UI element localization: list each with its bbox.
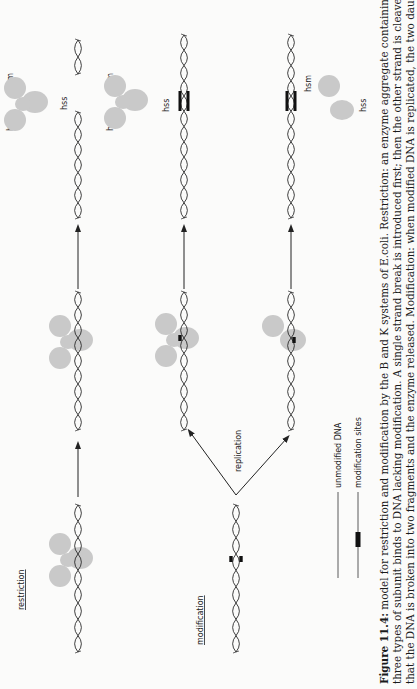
legend: unmodified DNA modification sites <box>334 417 363 578</box>
restriction-enzyme-stage1-core <box>60 553 76 567</box>
restriction-dna-stage1-strand-b <box>78 505 81 652</box>
svg-text:modification sites: modification sites <box>354 417 363 488</box>
restriction-modification-diagram: restriction modification replication hsr… <box>0 0 417 689</box>
restriction-dna-stage2-end-top <box>75 291 81 293</box>
restriction-enzyme-stage2-hsr-lobe <box>49 347 71 369</box>
daughter1-modification-site <box>178 335 181 341</box>
svg-text:hss: hss <box>162 99 171 112</box>
modification-dna-parent-strand-b <box>236 505 239 652</box>
legend-label-unmodified: unmodified DNA <box>334 422 343 488</box>
caption-line-3: that the DNA is broken into two fragment… <box>404 0 416 684</box>
parent-modification-site-a <box>229 556 232 562</box>
daughter2-released-hsm-lobe <box>318 75 340 97</box>
daughter2-dna-stage2-end-bottom <box>288 429 294 431</box>
restriction-dna-stage2-end-bottom <box>75 429 81 431</box>
restriction-dna-fragment-bottom-strand-a <box>75 112 78 218</box>
replication-arrow-right <box>236 438 287 495</box>
restriction-dna-fragment-bottom-end-top <box>75 111 81 113</box>
restriction-enzyme-released-hsm-lobe <box>4 77 26 99</box>
svg-text:hss: hss <box>359 99 368 112</box>
daughter2-dna-stage2-strand-b <box>291 292 294 430</box>
restriction-dna-fragment-top-strand-b <box>78 40 81 74</box>
restriction-dna-stage2-strand-b <box>78 292 81 430</box>
svg-text:hss: hss <box>60 97 69 110</box>
daughter1-enzyme-hsm-lobe <box>155 313 177 335</box>
daughter2-modification-site <box>292 337 295 343</box>
restriction-enzyme-stage2-hsm-lobe <box>49 315 71 337</box>
legend-label-modified: modification sites <box>354 417 363 488</box>
caption-line-1: Figure 11.4: model for restriction and m… <box>378 0 390 684</box>
label-hss-3: hss <box>359 99 368 112</box>
figure-11-4: restriction modification replication hsr… <box>0 0 417 689</box>
daughter1-enzyme-hsr-lobe <box>155 345 177 367</box>
restriction-dna-fragment-bottom-end-bottom <box>75 217 81 219</box>
daughter2-dna-stage3-strand-b <box>291 35 294 218</box>
daughter1-dna-stage3-strand-b <box>184 35 187 218</box>
svg-text:restriction: restriction <box>17 569 26 610</box>
label-hss-2: hss <box>162 99 171 112</box>
svg-text:modification: modification <box>196 595 205 645</box>
section-label-modification: modification <box>196 595 205 645</box>
restriction-enzyme-released-core <box>15 97 31 111</box>
restriction-enzyme-stage2-core <box>60 335 76 349</box>
daughter2-modified-sites-bar-a <box>286 91 289 111</box>
restriction-dna-stage2-strand-a <box>75 292 78 430</box>
svg-text:hsm: hsm <box>304 75 313 92</box>
daughter1-dna-stage3-end-top <box>181 34 187 36</box>
daughter1-dna-stage3-end-bottom <box>181 217 187 219</box>
daughter1-enzyme-released-hsr-lobe <box>104 107 126 129</box>
daughter1-dna-stage2-strand-a <box>181 292 184 430</box>
modification-dna-parent-strand-a <box>233 505 236 652</box>
daughter2-dna-stage3-end-top <box>288 34 294 36</box>
daughter2-dna-stage3-end-bottom <box>288 217 294 219</box>
restriction-enzyme-stage1-hsr-lobe <box>49 565 71 587</box>
daughter1-dna-stage2-end-top <box>181 291 187 293</box>
daughter2-modified-sites-bar-b <box>294 91 297 111</box>
svg-text:replication: replication <box>234 430 243 472</box>
section-label-restriction: restriction <box>17 569 26 610</box>
figure-caption: Figure 11.4: model for restriction and m… <box>378 0 416 684</box>
process-label-replication: replication <box>234 430 243 472</box>
daughter1-modified-sites-bar-a <box>179 91 182 111</box>
restriction-dna-fragment-bottom-strand-b <box>78 112 81 218</box>
daughter1-modified-sites-bar-b <box>187 91 190 111</box>
daughter1-enzyme-released-core <box>115 95 131 109</box>
diagram-shapes <box>4 34 354 653</box>
restriction-enzyme-stage1-hsm-lobe <box>49 533 71 555</box>
daughter1-enzyme-released-hsm-lobe <box>104 75 126 97</box>
svg-text:unmodified DNA: unmodified DNA <box>334 422 343 488</box>
daughter2-released-hss-lobe <box>330 100 354 120</box>
daughter1-dna-stage2-strand-b <box>184 292 187 430</box>
restriction-enzyme-released-hsr-lobe <box>4 109 26 131</box>
daughter2-dna-stage2-strand-a <box>288 292 291 430</box>
legend-modification-site-mark <box>356 532 361 547</box>
replication-arrow-left <box>190 432 236 495</box>
caption-line-2: three types of subunit binds to DNA lack… <box>391 0 403 684</box>
daughter2-enzyme-hsm-lobe <box>262 315 284 337</box>
parent-modification-site-b <box>239 556 242 562</box>
label-hsm-3: hsm <box>304 75 313 92</box>
daughter2-dna-stage2-end-top <box>288 291 294 293</box>
daughter1-dna-stage2-end-bottom <box>181 429 187 431</box>
restriction-dna-stage1-strand-a <box>75 505 78 652</box>
label-hss-1: hss <box>60 97 69 110</box>
